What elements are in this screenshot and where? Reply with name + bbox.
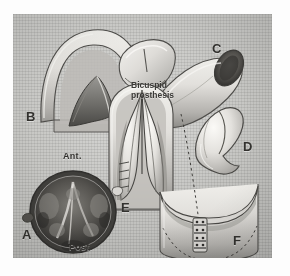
panel-label-e: E — [121, 201, 130, 214]
illustration-plate: Bicuspid prosthesis Ant. Post. A B C D E… — [13, 14, 272, 258]
panel-label-b: B — [26, 110, 36, 123]
panel-a-artwork — [22, 171, 122, 253]
illustration-artwork — [13, 14, 272, 258]
orientation-label-anterior: Ant. — [63, 152, 82, 161]
caption-bicuspid-line2: prosthesis — [131, 90, 201, 100]
figure-root: Bicuspid prosthesis Ant. Post. A B C D E… — [0, 0, 290, 276]
caption-bicuspid-prosthesis: Bicuspid prosthesis — [131, 80, 201, 100]
panel-label-f: F — [233, 234, 241, 247]
suture-pledget-group — [193, 218, 207, 252]
orientation-label-posterior: Post. — [69, 243, 93, 252]
panel-d-artwork — [196, 108, 250, 175]
panel-label-d: D — [243, 140, 253, 153]
panel-label-c: C — [212, 42, 222, 55]
caption-bicuspid-line1: Bicuspid — [131, 80, 201, 90]
panel-label-a: A — [22, 228, 32, 241]
